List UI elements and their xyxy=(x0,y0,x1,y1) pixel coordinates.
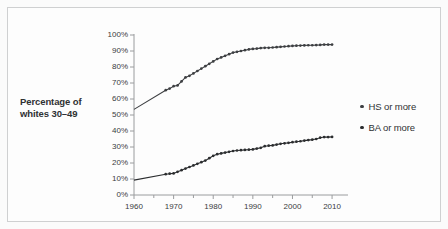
x-tick-label: 1990 xyxy=(236,202,270,211)
data-point xyxy=(279,142,282,145)
data-point xyxy=(252,48,255,51)
data-point xyxy=(275,46,278,49)
x-tick-label: 2010 xyxy=(315,202,349,211)
data-point xyxy=(295,140,298,143)
y-tick-label: 0% xyxy=(86,190,128,199)
data-point xyxy=(271,46,274,49)
data-point xyxy=(287,45,290,48)
data-point xyxy=(240,149,243,152)
x-tick-label: 1980 xyxy=(196,202,230,211)
data-point xyxy=(299,44,302,47)
data-point xyxy=(180,80,183,83)
series-line xyxy=(134,137,332,180)
data-point xyxy=(331,136,334,139)
data-point xyxy=(232,51,235,54)
x-axis-ticks xyxy=(134,195,332,199)
data-point xyxy=(283,142,286,145)
data-point xyxy=(204,159,207,162)
data-point xyxy=(208,157,211,160)
legend-label: BA or more xyxy=(369,122,416,133)
data-point xyxy=(236,149,239,152)
figure-container: Percentage of whites 30–49 0%10%20%30%40… xyxy=(0,0,448,229)
data-point xyxy=(248,48,251,51)
data-point xyxy=(307,44,310,47)
data-point xyxy=(164,89,167,92)
data-point xyxy=(208,62,211,65)
data-point xyxy=(248,148,251,151)
data-point xyxy=(184,167,187,170)
data-point xyxy=(291,141,294,144)
y-tick-label: 40% xyxy=(86,126,128,135)
data-point xyxy=(196,70,199,73)
data-point xyxy=(192,72,195,75)
legend-label: HS or more xyxy=(369,101,417,112)
data-point xyxy=(319,44,322,47)
data-point xyxy=(180,169,183,172)
y-tick-label: 20% xyxy=(86,158,128,167)
data-point xyxy=(204,65,207,68)
data-point xyxy=(275,143,278,146)
data-point xyxy=(172,85,175,88)
data-point xyxy=(212,60,215,63)
data-point xyxy=(228,150,231,153)
data-point xyxy=(232,150,235,153)
data-point xyxy=(176,84,179,87)
chart-legend: HS or moreBA or more xyxy=(360,98,448,140)
series-line xyxy=(134,45,332,110)
data-point xyxy=(172,172,175,175)
chart-frame: Percentage of whites 30–49 0%10%20%30%40… xyxy=(7,7,441,222)
data-point xyxy=(220,56,223,59)
data-point xyxy=(184,76,187,79)
data-point xyxy=(323,43,326,46)
data-point xyxy=(319,136,322,139)
data-point xyxy=(224,54,227,57)
data-point xyxy=(303,44,306,47)
series-ba-or-more xyxy=(134,136,333,181)
data-point xyxy=(303,139,306,142)
legend-dot-icon xyxy=(360,126,364,130)
data-point xyxy=(216,153,219,156)
axis-lines xyxy=(134,34,348,195)
data-point xyxy=(299,140,302,143)
data-point xyxy=(196,162,199,165)
series-hs-or-more xyxy=(134,43,333,109)
x-tick-label: 1970 xyxy=(157,202,191,211)
data-point xyxy=(311,44,314,47)
data-point xyxy=(240,50,243,53)
data-point xyxy=(279,45,282,48)
data-point xyxy=(315,138,318,141)
legend-item[interactable]: BA or more xyxy=(360,119,448,136)
y-tick-label: 100% xyxy=(86,30,128,39)
data-point xyxy=(331,43,334,46)
legend-item[interactable]: HS or more xyxy=(360,98,448,115)
data-point xyxy=(263,145,266,148)
data-point xyxy=(255,147,258,150)
data-point xyxy=(267,144,270,147)
data-point xyxy=(168,172,171,175)
data-point xyxy=(263,46,266,49)
y-tick-label: 60% xyxy=(86,94,128,103)
data-point xyxy=(168,87,171,90)
data-point xyxy=(315,44,318,47)
data-point xyxy=(307,139,310,142)
data-point xyxy=(259,47,262,50)
y-tick-label: 80% xyxy=(86,62,128,71)
data-point xyxy=(188,166,191,169)
data-point xyxy=(200,161,203,164)
series-layer xyxy=(134,43,333,180)
data-point xyxy=(267,46,270,49)
data-point xyxy=(164,173,167,176)
data-point xyxy=(327,43,330,46)
data-point xyxy=(220,152,223,155)
data-point xyxy=(287,141,290,144)
y-tick-label: 30% xyxy=(86,142,128,151)
data-point xyxy=(224,151,227,154)
data-point xyxy=(212,154,215,157)
data-point xyxy=(283,45,286,48)
data-point xyxy=(291,45,294,48)
data-point xyxy=(327,136,330,139)
data-point xyxy=(228,53,231,56)
data-point xyxy=(252,148,255,151)
y-tick-label: 50% xyxy=(86,110,128,119)
data-point xyxy=(271,144,274,147)
